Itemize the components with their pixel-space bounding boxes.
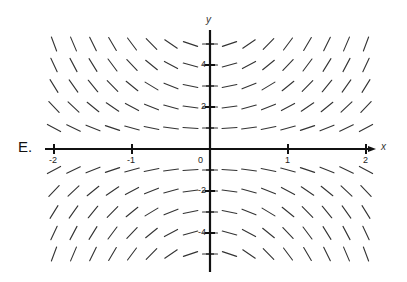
slope-segment: [263, 228, 275, 237]
slope-segment: [301, 187, 313, 195]
slope-segment: [242, 83, 256, 89]
slope-segment: [126, 207, 138, 216]
slope-segment: [105, 126, 119, 131]
slope-segment: [146, 228, 158, 237]
slope-segment: [67, 167, 81, 173]
slope-segment: [90, 37, 97, 50]
slope-segment: [126, 81, 138, 90]
slope-segment: [242, 127, 257, 129]
slope-segment: [340, 125, 354, 131]
slope-segment: [125, 168, 139, 172]
slope-segment: [344, 37, 350, 51]
slope-segment: [324, 247, 331, 260]
slope-segment: [300, 168, 314, 173]
x-tick-label: 1: [285, 155, 290, 165]
slope-segment: [68, 186, 79, 196]
slope-segment: [263, 60, 275, 69]
slope-segment: [107, 81, 118, 92]
slope-segment: [222, 63, 236, 67]
slope-segment: [222, 231, 236, 235]
slope-segment: [183, 169, 198, 170]
slope-segment: [183, 42, 197, 47]
slope-segment: [284, 248, 293, 260]
slope-segment: [361, 102, 371, 113]
slope-segment: [108, 227, 117, 239]
slope-segment: [261, 169, 276, 172]
slope-segment: [183, 231, 197, 235]
slope-segment: [321, 102, 333, 111]
slope-segment: [106, 187, 118, 195]
slope-segment: [242, 169, 257, 171]
slope-segment: [363, 247, 368, 261]
slope-segment: [164, 209, 178, 215]
slope-segment: [222, 85, 237, 88]
slope-segment: [145, 104, 159, 110]
slope-segment: [49, 102, 59, 113]
slope-segment: [363, 37, 368, 51]
slope-segment: [341, 102, 352, 112]
x-tick-label: 2: [363, 155, 368, 165]
slope-segment: [262, 188, 276, 194]
x-tick-label: -1: [127, 155, 135, 165]
slope-segment: [108, 59, 117, 71]
slope-segment: [281, 168, 295, 172]
slope-segment: [363, 58, 369, 72]
slope-segment: [164, 61, 177, 68]
slope-segment: [222, 127, 237, 128]
slope-segment: [164, 83, 178, 89]
slope-segment: [51, 226, 57, 240]
slope-segment: [146, 249, 157, 260]
slope-segment: [183, 190, 198, 192]
slope-segment: [144, 127, 159, 130]
slope-segment: [51, 37, 56, 51]
slope-segment: [70, 58, 77, 71]
slope-segment: [304, 38, 312, 51]
slope-segment: [183, 211, 198, 214]
slope-segment: [164, 127, 179, 129]
slope-segment: [302, 207, 313, 218]
slope-segment: [70, 226, 77, 239]
slope-segment: [69, 80, 78, 92]
slope-segment: [359, 166, 372, 173]
slope-segment: [145, 82, 158, 90]
slope-segment: [222, 169, 237, 170]
slope-segment: [359, 124, 372, 131]
slope-segment: [87, 102, 99, 111]
slope-segment: [86, 125, 100, 131]
slope-segment: [222, 211, 237, 214]
slope-segment: [106, 103, 118, 111]
slope-segment: [304, 248, 312, 261]
x-axis-arrow-icon: [368, 146, 376, 152]
slope-segment: [128, 38, 137, 50]
y-axis-name: y: [206, 14, 211, 25]
slope-segment: [47, 166, 60, 173]
slope-segment: [88, 80, 98, 92]
slope-segment: [146, 39, 157, 50]
slope-segment: [262, 104, 276, 110]
slope-segment: [222, 190, 237, 192]
slope-segment: [284, 38, 293, 50]
slope-segment: [303, 227, 312, 239]
slope-segment: [361, 186, 371, 197]
slope-segment: [164, 169, 179, 171]
x-axis-name: x: [381, 141, 386, 152]
slope-segment: [88, 206, 98, 218]
slope-segment: [242, 105, 256, 109]
slope-segment: [164, 229, 177, 236]
slope-segment: [105, 168, 119, 173]
slope-segment: [263, 249, 274, 260]
slope-segment: [183, 85, 198, 88]
slope-segment: [340, 167, 354, 173]
slope-segment: [322, 80, 332, 92]
slope-segment: [145, 188, 159, 194]
slope-segment: [127, 60, 137, 71]
slope-segment: [125, 187, 138, 194]
slope-segment: [183, 252, 197, 257]
slope-segment: [243, 40, 255, 48]
slope-segment: [243, 250, 255, 258]
slope-segment: [343, 58, 350, 71]
slope-segment: [343, 226, 350, 239]
slope-segment: [242, 209, 256, 215]
slope-segment: [324, 37, 331, 50]
slope-segment: [362, 206, 370, 219]
